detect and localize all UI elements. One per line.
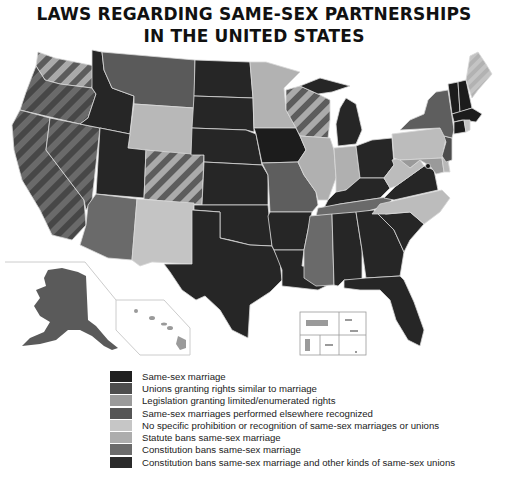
legend-swatch bbox=[110, 444, 132, 455]
legend-item-constitution-ban-all: Constitution bans same-sex marriage and … bbox=[110, 456, 455, 468]
legend-item-limited-rights: Legislation granting limited/enumerated … bbox=[110, 395, 455, 407]
legend-swatch bbox=[110, 432, 132, 443]
state-hawaii-island-1[interactable] bbox=[134, 309, 138, 313]
state-kansas[interactable] bbox=[202, 162, 268, 205]
legend-swatch bbox=[110, 408, 132, 419]
state-north-dakota[interactable] bbox=[194, 60, 253, 98]
legend-item-statute-ban: Statute bans same-sex marriage bbox=[110, 431, 455, 443]
legend-item-same-sex-marriage: Same-sex marriage bbox=[110, 370, 455, 382]
state-south-dakota[interactable] bbox=[192, 96, 254, 132]
legend-item-unions: Unions granting rights similar to marria… bbox=[110, 382, 455, 394]
legend-swatch bbox=[110, 420, 132, 431]
legend-item-constitution-ban-marriage: Constitution bans same-sex marriage bbox=[110, 444, 455, 456]
state-pennsylvania[interactable] bbox=[392, 128, 446, 160]
legend-swatch bbox=[110, 383, 132, 394]
legend-label: Unions granting rights similar to marria… bbox=[142, 383, 317, 394]
state-hawaii-big-island[interactable] bbox=[176, 336, 186, 350]
hawaii-inset bbox=[116, 300, 190, 355]
state-hawaii-island-3[interactable] bbox=[161, 323, 167, 326]
state-new-mexico[interactable] bbox=[132, 199, 194, 266]
legend-label: Constitution bans same-sex marriage and … bbox=[142, 457, 455, 468]
state-alaska[interactable] bbox=[22, 268, 118, 350]
legend-label: Same-sex marriage bbox=[142, 371, 226, 382]
legend-label: Constitution bans same-sex marriage bbox=[142, 444, 301, 455]
legend-swatch bbox=[110, 457, 132, 468]
territory-virgin-islands[interactable] bbox=[345, 319, 352, 321]
territories-inset bbox=[300, 312, 366, 355]
us-map bbox=[0, 0, 508, 370]
state-hawaii-island-4[interactable] bbox=[167, 326, 173, 330]
legend-label: Statute bans same-sex marriage bbox=[142, 432, 281, 443]
state-dc[interactable] bbox=[426, 164, 431, 169]
territory-northern-marianas[interactable] bbox=[325, 344, 333, 346]
legend-label: Same-sex marriages performed elsewhere r… bbox=[142, 408, 373, 419]
state-mississippi[interactable] bbox=[304, 214, 334, 286]
legend-label: Legislation granting limited/enumerated … bbox=[142, 395, 336, 406]
state-arizona[interactable] bbox=[80, 194, 137, 260]
state-maine[interactable] bbox=[466, 52, 492, 98]
territory-puerto-rico[interactable] bbox=[306, 320, 328, 326]
state-hawaii-island-2[interactable] bbox=[149, 316, 155, 320]
legend-label: No specific prohibition or recognition o… bbox=[142, 420, 439, 431]
legend-swatch bbox=[110, 395, 132, 406]
legend-item-recognized-elsewhere: Same-sex marriages performed elsewhere r… bbox=[110, 407, 455, 419]
territory-virgin-islands-2[interactable] bbox=[350, 330, 358, 332]
state-colorado[interactable] bbox=[144, 150, 204, 205]
state-wyoming[interactable] bbox=[128, 104, 194, 155]
state-michigan-lower[interactable] bbox=[336, 98, 362, 146]
legend-swatch bbox=[110, 371, 132, 382]
state-florida[interactable] bbox=[344, 276, 424, 346]
territory-guam[interactable] bbox=[305, 339, 310, 351]
alaska-inset bbox=[5, 262, 118, 350]
legend-item-no-prohibition: No specific prohibition or recognition o… bbox=[110, 419, 455, 431]
territory-american-samoa[interactable] bbox=[355, 351, 357, 353]
map-legend: Same-sex marriage Unions granting rights… bbox=[110, 370, 455, 468]
